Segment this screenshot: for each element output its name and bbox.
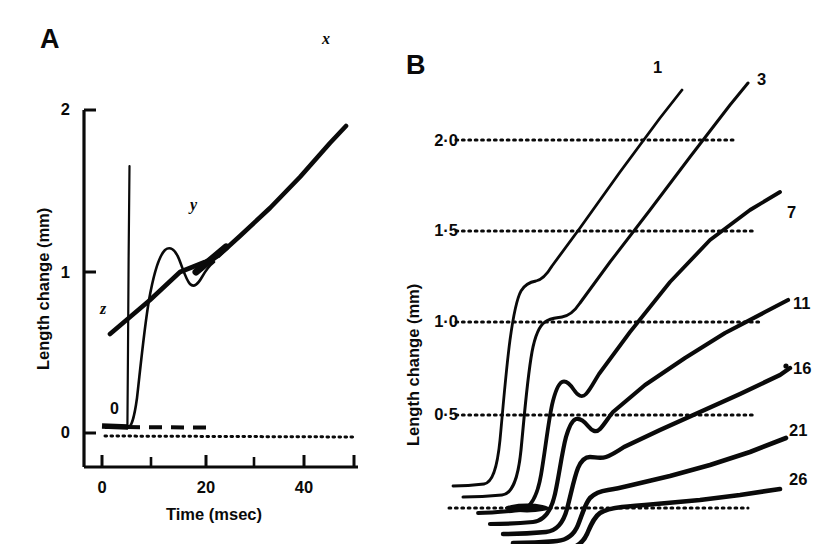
panel-b-trace-16-leader-dot xyxy=(783,363,788,368)
panel-b-plot xyxy=(0,0,836,544)
figure-root: A Length change (mm) Time (msec) 2 1 0 0… xyxy=(0,0,836,544)
panel-b-origin-blob xyxy=(505,504,549,513)
panel-b-gridlines xyxy=(449,140,762,508)
panel-b-trace-1 xyxy=(453,90,682,486)
panel-b-trace-11 xyxy=(490,300,788,524)
panel-b-trace-7 xyxy=(478,192,780,513)
panel-b-trace-3 xyxy=(463,83,748,497)
